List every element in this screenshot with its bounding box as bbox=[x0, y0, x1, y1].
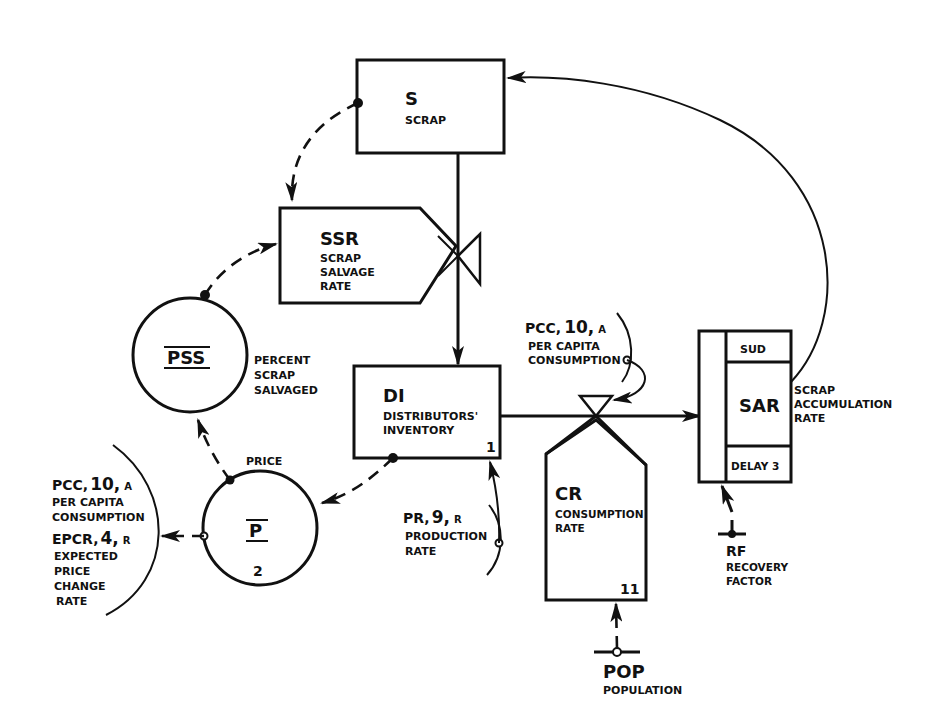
info-link-pss-to-ssr bbox=[205, 244, 276, 295]
di-label-line1: DISTRIBUTORS' bbox=[383, 410, 478, 423]
rf-label-line1: RECOVERY bbox=[726, 561, 788, 573]
pcc-top-bracket bbox=[617, 313, 631, 382]
pcc-left-label-line2: CONSUMPTION bbox=[52, 511, 145, 524]
price-number: 2 bbox=[253, 563, 263, 579]
population-constant[interactable]: POP POPULATION bbox=[594, 648, 682, 697]
scrap-symbol: S bbox=[405, 88, 418, 109]
sar-top-label: SUD bbox=[740, 343, 766, 356]
sar-label-line1: SCRAP bbox=[794, 384, 835, 397]
ssr-label-line1: SCRAP bbox=[320, 252, 361, 265]
recovery-factor-constant[interactable]: RF RECOVERY FACTOR bbox=[718, 520, 788, 587]
price-auxiliary-node[interactable]: P 2 bbox=[201, 471, 318, 585]
pss-label-line2: SCRAP bbox=[254, 369, 295, 382]
ssr-label-line3: RATE bbox=[320, 280, 351, 293]
consumption-rate-node[interactable]: CR CONSUMPTION RATE 11 bbox=[546, 420, 646, 600]
cr-valve-icon bbox=[580, 396, 612, 416]
pr-label-line2: RATE bbox=[405, 545, 436, 558]
price-label: PRICE bbox=[246, 455, 282, 468]
sar-label-line3: RATE bbox=[794, 412, 825, 425]
pr-code: PR,9,R bbox=[403, 507, 462, 527]
cr-label-line1: CONSUMPTION bbox=[555, 508, 643, 520]
info-link-rf-to-sar bbox=[722, 486, 732, 512]
scrap-label: SCRAP bbox=[405, 114, 446, 127]
pop-label: POPULATION bbox=[603, 684, 682, 697]
rf-symbol: RF bbox=[726, 543, 746, 559]
scrap-level-box[interactable]: S SCRAP bbox=[353, 60, 504, 153]
sar-delay-label: DELAY 3 bbox=[731, 460, 779, 472]
info-link-di-to-price bbox=[322, 458, 393, 503]
sar-delay-node[interactable]: SUD SAR DELAY 3 bbox=[699, 331, 791, 482]
sar-symbol: SAR bbox=[739, 395, 780, 416]
ssr-label-line2: SALVAGE bbox=[320, 266, 375, 279]
pr-label-line1: PRODUCTION bbox=[405, 530, 487, 543]
epcr-label-line4: RATE bbox=[56, 595, 87, 608]
di-symbol: DI bbox=[383, 385, 405, 406]
info-link-scrap-to-ssr bbox=[292, 103, 358, 200]
flow-production-to-inventory bbox=[490, 462, 499, 543]
cr-label-line2: RATE bbox=[555, 522, 585, 534]
price-symbol: P bbox=[249, 520, 262, 541]
pss-label-line3: SALVAGED bbox=[254, 384, 318, 397]
flow-diagram: S SCRAP SSR SCRAP SALVAGE RATE PSS PERCE… bbox=[0, 0, 940, 727]
info-link-price-to-pss bbox=[198, 420, 230, 480]
epcr-label-line2: PRICE bbox=[54, 565, 90, 578]
di-number: 1 bbox=[486, 439, 496, 455]
epcr-code: EPCR,4,R bbox=[52, 528, 131, 548]
pcc-left-label-line1: PER CAPITA bbox=[52, 496, 124, 509]
pcc-top-label-line2: CONSUMPTION bbox=[528, 354, 621, 367]
sar-label-line2: ACCUMULATION bbox=[794, 398, 892, 411]
epcr-label-line3: CHANGE bbox=[54, 580, 106, 593]
pss-auxiliary-node[interactable]: PSS bbox=[133, 290, 247, 412]
ssr-symbol: SSR bbox=[320, 228, 359, 249]
cr-number: 11 bbox=[620, 581, 639, 597]
pcc-top-label-line1: PER CAPITA bbox=[528, 340, 600, 353]
pss-symbol: PSS bbox=[167, 347, 205, 368]
distributors-inventory-box[interactable]: DI DISTRIBUTORS' INVENTORY 1 bbox=[354, 366, 500, 463]
epcr-label-line1: EXPECTED bbox=[54, 550, 118, 563]
info-link-pop-to-cr bbox=[616, 604, 617, 648]
ssr-valve-flap-icon bbox=[458, 234, 480, 284]
ssr-rate-node[interactable]: SSR SCRAP SALVAGE RATE bbox=[280, 208, 456, 303]
pop-symbol: POP bbox=[603, 661, 645, 682]
pcc-top-code: PCC,10,A bbox=[525, 317, 606, 337]
pss-label-line1: PERCENT bbox=[254, 354, 311, 367]
cr-symbol: CR bbox=[555, 483, 582, 504]
di-label-line2: INVENTORY bbox=[383, 424, 455, 437]
rf-label-line2: FACTOR bbox=[726, 575, 772, 587]
pcc-left-code: PCC,10,A bbox=[52, 474, 132, 494]
